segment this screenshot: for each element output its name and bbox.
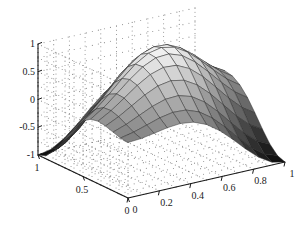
y-tick-label-2: 0 bbox=[125, 206, 130, 216]
y-tick-label-1: 0.5 bbox=[76, 185, 89, 195]
floor-grid-line-x-6 bbox=[132, 133, 223, 177]
z-tick-label-2: 0 bbox=[30, 95, 35, 105]
leftwall-x-grid-v-9 bbox=[46, 48, 47, 160]
floor-grid-line-x-7 bbox=[147, 129, 238, 173]
x-tick-label-4: 0.8 bbox=[254, 176, 267, 186]
backwall-y-grid-v-1 bbox=[53, 40, 54, 152]
backwall-y-grid-v-2 bbox=[69, 36, 70, 148]
z-tick-label-1: 0.5 bbox=[23, 67, 36, 77]
backwall-y-grid-v-4 bbox=[100, 29, 101, 141]
surface-mesh bbox=[38, 45, 285, 163]
surface-plot-figure: 10.50-0.5-110.5000.20.40.60.81 bbox=[0, 0, 298, 228]
z-tick-2 bbox=[38, 98, 42, 100]
backwall-y-grid-v-3 bbox=[85, 33, 86, 145]
z-tick-label-3: -0.5 bbox=[19, 122, 35, 132]
x-tick-label-1: 0.2 bbox=[160, 198, 173, 208]
y-tick-label-0: 1 bbox=[35, 163, 40, 173]
leftwall-x-grid-v-4 bbox=[91, 69, 92, 181]
z-tick-1 bbox=[38, 70, 42, 72]
floor-grid-line-x-3 bbox=[85, 144, 176, 188]
x-tick-label-0: 0 bbox=[133, 205, 138, 215]
plot-canvas bbox=[0, 0, 298, 228]
x-tick-label-2: 0.4 bbox=[192, 191, 205, 201]
x-tick-0 bbox=[127, 198, 128, 203]
z-tick-label-0: 1 bbox=[30, 39, 35, 49]
x-tick-label-3: 0.6 bbox=[223, 183, 236, 193]
z-tick-0 bbox=[38, 42, 42, 44]
floor-grid-line-x-1 bbox=[53, 151, 144, 195]
z-tick-label-4: -1 bbox=[27, 150, 35, 160]
z-tick-3 bbox=[38, 126, 42, 128]
x-tick-label-5: 1 bbox=[290, 169, 295, 179]
